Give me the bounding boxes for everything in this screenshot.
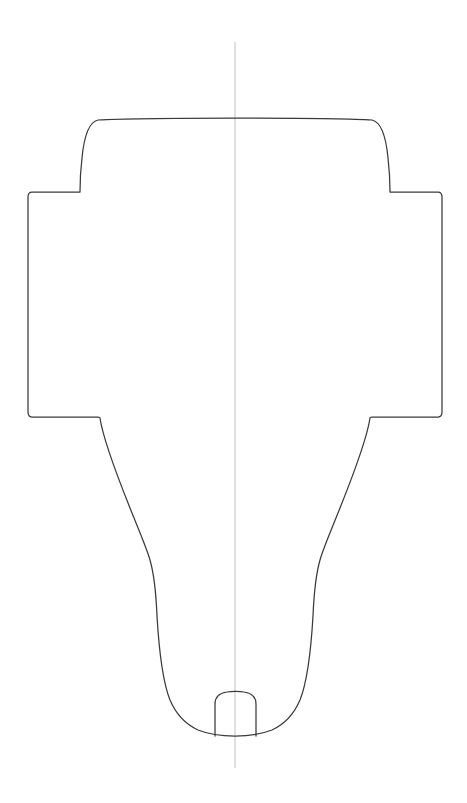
technical-drawing-svg [0, 0, 467, 803]
page-background [0, 0, 467, 803]
drawing-canvas [0, 0, 467, 803]
